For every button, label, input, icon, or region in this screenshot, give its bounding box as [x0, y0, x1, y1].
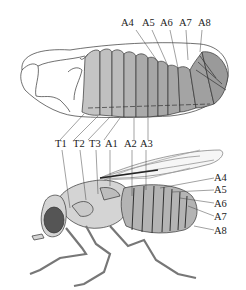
fly-label-a4: A4: [214, 173, 227, 184]
fly-drawing: [30, 150, 223, 286]
label-t3: T3: [89, 139, 101, 150]
diagram-drawing: [0, 0, 246, 290]
embryo-label-a5: A5: [142, 18, 155, 29]
fly-label-a6: A6: [214, 199, 227, 210]
fly-label-a7: A7: [214, 212, 227, 223]
label-a3: A3: [140, 139, 153, 150]
label-a2: A2: [124, 139, 137, 150]
embryo-label-a4: A4: [121, 18, 134, 29]
embryo-segments: [82, 49, 228, 117]
embryo-label-a8: A8: [198, 18, 211, 29]
label-t1: T1: [55, 139, 67, 150]
fly-label-a8: A8: [214, 226, 227, 237]
embryo-label-a6: A6: [160, 18, 173, 29]
label-t2: T2: [73, 139, 85, 150]
drosophila-segment-diagram: A4 A5 A6 A7 A8 T1 T2 T3 A1 A2 A3 A4 A5 A…: [0, 0, 246, 290]
label-a1: A1: [105, 139, 118, 150]
fly-label-a5: A5: [214, 185, 227, 196]
embryo-label-a7: A7: [179, 18, 192, 29]
